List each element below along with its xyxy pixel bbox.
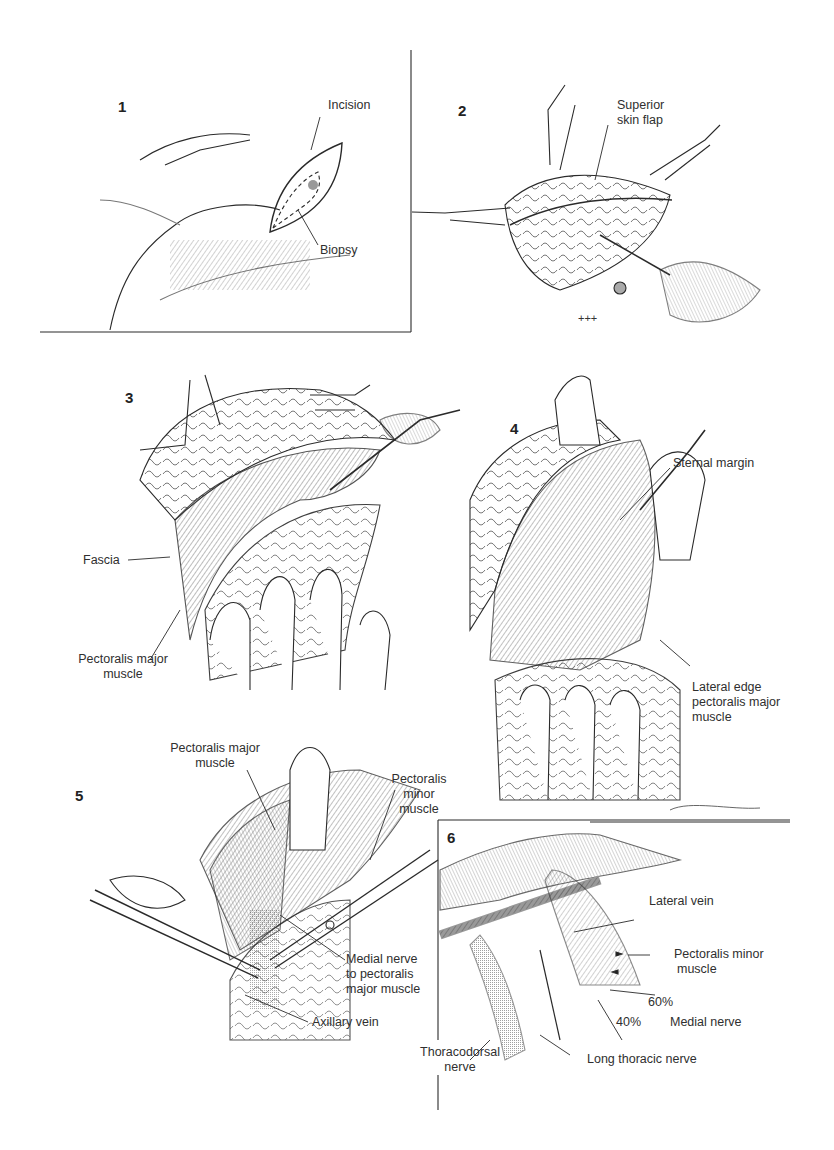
panel-3-art xyxy=(128,375,460,690)
long-thoracic-leader xyxy=(540,1035,570,1055)
label-fascia: Fascia xyxy=(83,553,120,568)
artist-signature-stroke xyxy=(670,805,760,810)
panel-number-2: 2 xyxy=(458,102,466,119)
panel-1-art xyxy=(40,50,411,332)
label-line: pectoralis major xyxy=(692,695,780,710)
label-lateral-edge: Lateral edge pectoralis major muscle xyxy=(692,680,780,725)
label-line: Pectoralis major xyxy=(68,652,178,667)
label-line: Medial nerve xyxy=(346,952,420,967)
label-superior-skin-flap-line1: Superior xyxy=(617,98,664,113)
panel-4-art xyxy=(470,376,790,822)
label-biopsy: Biopsy xyxy=(320,243,358,258)
label-lateral-vein: Lateral vein xyxy=(649,894,714,909)
label-medial-nerve-p6: Medial nerve xyxy=(670,1015,742,1030)
label-sternal-margin: Sternal margin xyxy=(673,456,754,471)
label-line: minor xyxy=(388,787,450,802)
panel-2-art: +++ xyxy=(412,85,760,324)
label-pectoralis-minor-p6: Pectoralis minor muscle xyxy=(674,947,764,977)
label-line: major muscle xyxy=(346,982,420,997)
panel-number-3: 3 xyxy=(125,389,133,406)
label-thoracodorsal-nerve: Thoracodorsal nerve xyxy=(412,1045,508,1075)
label-line: Pectoralis major xyxy=(160,741,270,756)
label-axillary-vein: Axillary vein xyxy=(312,1015,379,1030)
label-medial-nerve-p5: Medial nerve to pectoralis major muscle xyxy=(346,952,420,997)
label-line: muscle xyxy=(388,802,450,817)
label-superior-skin-flap-line2: skin flap xyxy=(617,113,663,128)
label-line: muscle xyxy=(692,710,780,725)
label-line: muscle xyxy=(160,756,270,771)
panel-number-4: 4 xyxy=(510,420,518,437)
label-pectoralis-major-p3: Pectoralis major muscle xyxy=(68,652,178,682)
label-line: Pectoralis minor xyxy=(674,947,764,962)
label-pectoralis-minor-p5: Pectoralis minor muscle xyxy=(388,772,450,817)
skin-flap-leader xyxy=(595,125,608,180)
surgical-illustration-plate: +++ xyxy=(0,0,834,1150)
panel-number-5: 5 xyxy=(75,787,83,804)
label-line: Thoracodorsal xyxy=(412,1045,508,1060)
label-long-thoracic-nerve: Long thoracic nerve xyxy=(587,1052,697,1067)
label-line: Lateral edge xyxy=(692,680,780,695)
lateral-edge-leader xyxy=(660,640,690,666)
label-line: Pectoralis xyxy=(388,772,450,787)
label-line: muscle xyxy=(674,962,764,977)
panel-number-1: 1 xyxy=(118,98,126,115)
svg-text:+++: +++ xyxy=(578,312,597,324)
label-40-percent: 40% xyxy=(616,1015,641,1030)
label-incision: Incision xyxy=(328,98,370,113)
fascia-leader xyxy=(128,557,170,560)
label-60-percent: 60% xyxy=(648,995,673,1010)
label-line: nerve xyxy=(412,1060,508,1075)
biopsy-leader xyxy=(298,210,318,245)
incision-leader xyxy=(311,117,320,150)
label-line: to pectoralis xyxy=(346,967,420,982)
label-line: muscle xyxy=(68,667,178,682)
label-pectoralis-major-p5: Pectoralis major muscle xyxy=(160,741,270,771)
panel-number-6: 6 xyxy=(447,829,455,846)
